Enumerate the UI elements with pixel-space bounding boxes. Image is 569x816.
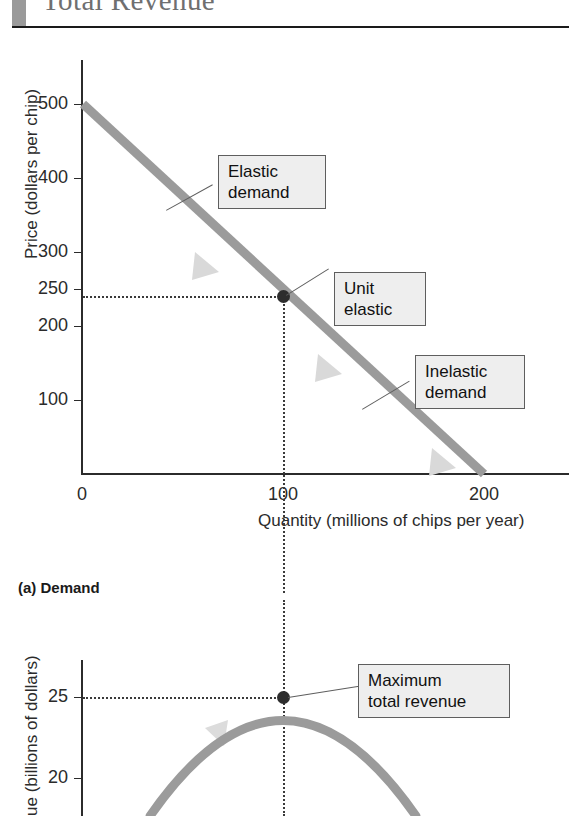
callout-inelastic-demand: Inelastic demand	[415, 355, 525, 409]
panel-b-total-revenue-curve	[150, 721, 416, 816]
panel-demand: Price (dollars per chip) 500 400 300 250…	[0, 34, 569, 559]
panel-a-unit-elastic-point	[277, 290, 290, 303]
callout-maximum-total-revenue: Maximum total revenue	[358, 664, 510, 718]
callout-elastic-demand: Elastic demand	[218, 155, 326, 209]
figure-title-banner: Total Revenue	[0, 0, 569, 34]
panel-a-caption: (a) Demand	[18, 579, 100, 596]
title-accent-bar	[12, 0, 26, 26]
callout-unit-elastic: Unit elastic	[334, 272, 426, 326]
panel-total-revenue: ue (billions of dollars) 25 20 Maximum t…	[0, 600, 569, 816]
title-divider	[12, 26, 569, 28]
page-title: Total Revenue	[42, 0, 215, 17]
